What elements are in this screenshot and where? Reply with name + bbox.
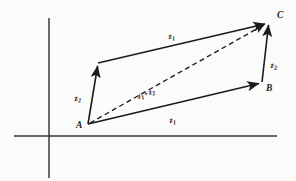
vector-z2-left-arrow (88, 66, 98, 124)
vector-label-z2-right-sub: 2 (274, 63, 278, 70)
vector-label-z2-left: z2 (74, 93, 82, 102)
vector-addition-figure: A B C z1 z1 z2 z2 z1+z2 (0, 0, 296, 181)
vector-label-z1-bottom: z1 (169, 115, 177, 124)
vector-label-z1-top: z1 (168, 31, 176, 40)
vector-sum-diagonal-dashed (90, 25, 265, 124)
vector-label-z1-bottom-sub: 1 (172, 118, 176, 125)
vector-label-z2-right: z2 (270, 60, 277, 69)
vector-z1-top-arrow (98, 24, 265, 63)
vector-label-z1-top-sub: 1 (171, 34, 175, 41)
point-label-a: A (76, 121, 83, 131)
point-label-c: C (277, 11, 284, 21)
vector-label-z2-left-sub: 2 (77, 96, 81, 103)
vector-z2-right-arrow (262, 25, 269, 82)
point-label-b: B (266, 84, 273, 94)
